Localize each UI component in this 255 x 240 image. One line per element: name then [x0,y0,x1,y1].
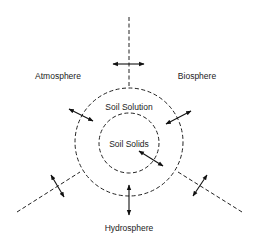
boundary-line-left [17,172,80,212]
label-atmosphere: Atmosphere [35,71,81,81]
label-biosphere: Biosphere [178,71,217,81]
arrow-biosphere-hydrosphere-icon [193,175,207,196]
soil-spheres-diagram: Atmosphere Biosphere Soil Solution Soil … [0,0,255,240]
arrow-biosphere-soil-solution-icon [166,111,191,124]
arrow-atmosphere-hydrosphere-icon [51,175,64,197]
label-soil-solution: Soil Solution [105,102,153,112]
label-soil-solids: Soil Solids [109,139,149,149]
arrow-atmosphere-soil-solution-icon [69,109,93,121]
label-hydrosphere: Hydrosphere [105,223,154,233]
boundary-line-right [178,172,242,212]
